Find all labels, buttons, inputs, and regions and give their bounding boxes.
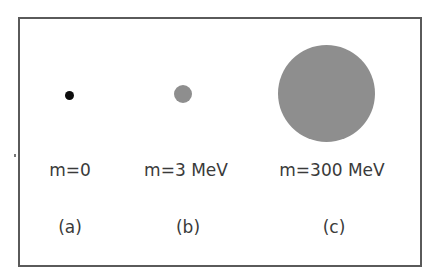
panel-caption-b: (b) [176, 219, 200, 236]
heavy-particle-circle-c [278, 45, 375, 142]
mass-label-c: m=300 MeV [279, 162, 384, 179]
mass-label-b: m=3 MeV [144, 162, 228, 179]
light-particle-circle-b [174, 85, 192, 103]
panel-caption-c: (c) [323, 219, 346, 236]
scan-artifact-mark [14, 154, 16, 157]
massless-particle-dot-a [65, 91, 74, 100]
mass-label-a: m=0 [49, 162, 91, 179]
panel-caption-a: (a) [58, 219, 82, 236]
